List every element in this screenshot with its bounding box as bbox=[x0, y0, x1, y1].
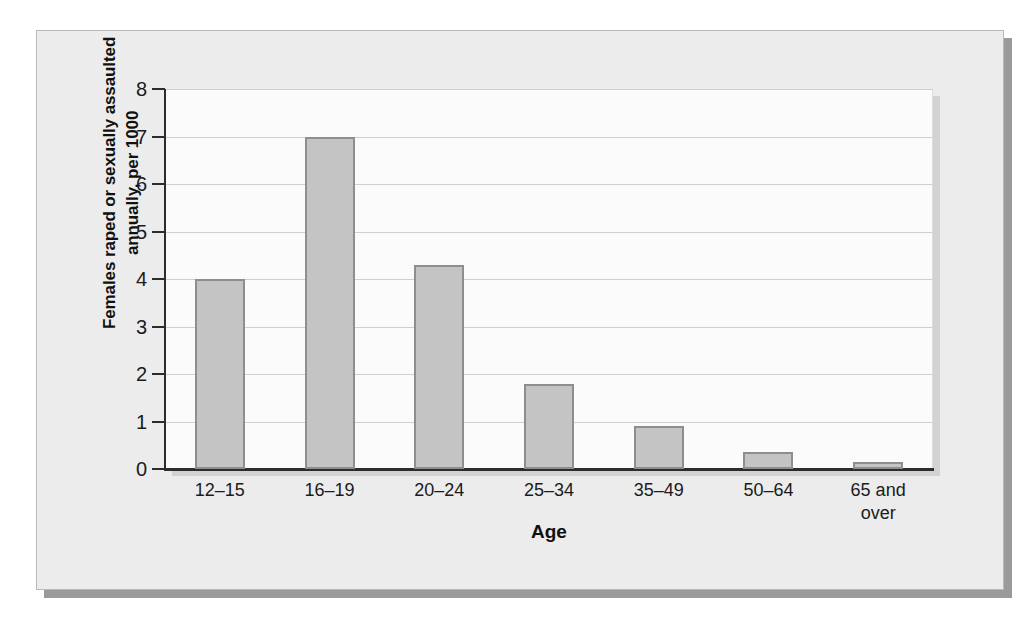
x-tick-label: 25–34 bbox=[494, 479, 604, 502]
grid-line-3 bbox=[165, 327, 933, 328]
grid-line-7 bbox=[165, 137, 933, 138]
x-tick-label: 16–19 bbox=[275, 479, 385, 502]
y-axis-title-line-2: annually, per 1000 bbox=[122, 0, 145, 383]
grid-line-8 bbox=[165, 89, 933, 90]
figure-root: 012345678 12–1516–1920–2425–3435–4950–64… bbox=[0, 0, 1028, 618]
y-tick-7 bbox=[152, 136, 165, 138]
bar bbox=[853, 462, 903, 469]
x-tick-label-line-1: 20–24 bbox=[384, 479, 494, 502]
x-tick-label-line-1: 35–49 bbox=[604, 479, 714, 502]
x-tick-label: 35–49 bbox=[604, 479, 714, 502]
y-axis-title-line-1: Females raped or sexually assaulted bbox=[99, 0, 122, 383]
bar bbox=[524, 384, 574, 470]
y-tick-5 bbox=[152, 231, 165, 233]
y-tick-label-0: 0 bbox=[107, 459, 147, 479]
bar bbox=[634, 426, 684, 469]
y-tick-3 bbox=[152, 326, 165, 328]
y-tick-8 bbox=[152, 88, 165, 90]
y-tick-0 bbox=[152, 468, 165, 470]
y-tick-6 bbox=[152, 183, 165, 185]
x-tick-label: 20–24 bbox=[384, 479, 494, 502]
y-tick-4 bbox=[152, 278, 165, 280]
x-tick-label-line-1: 25–34 bbox=[494, 479, 604, 502]
bar bbox=[305, 137, 355, 470]
x-tick-label-line-1: 65 and bbox=[823, 479, 933, 502]
x-tick-label-line-1: 12–15 bbox=[165, 479, 275, 502]
x-tick-label-line-1: 16–19 bbox=[275, 479, 385, 502]
grid-line-5 bbox=[165, 232, 933, 233]
bar bbox=[414, 265, 464, 469]
bar bbox=[195, 279, 245, 469]
y-tick-1 bbox=[152, 421, 165, 423]
grid-line-6 bbox=[165, 184, 933, 185]
x-axis-title: Age bbox=[164, 521, 934, 543]
y-tick-label-1: 1 bbox=[107, 412, 147, 432]
bar bbox=[743, 452, 793, 469]
x-tick-label: 50–64 bbox=[714, 479, 824, 502]
grid-line-2 bbox=[165, 374, 933, 375]
x-tick-label: 65 andover bbox=[823, 479, 933, 524]
x-tick-label: 12–15 bbox=[165, 479, 275, 502]
y-tick-2 bbox=[152, 373, 165, 375]
x-tick-label-line-1: 50–64 bbox=[714, 479, 824, 502]
grid-line-4 bbox=[165, 279, 933, 280]
y-axis-title: Females raped or sexually assaulted annu… bbox=[99, 0, 145, 383]
